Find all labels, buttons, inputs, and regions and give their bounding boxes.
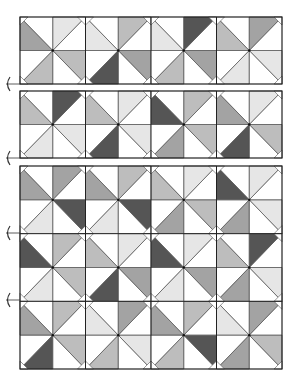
center-dot: [248, 266, 250, 268]
center-dot: [183, 334, 185, 336]
center-dot: [52, 199, 54, 201]
center-dot: [52, 49, 54, 51]
center-dot: [248, 199, 250, 201]
center-dot: [117, 266, 119, 268]
quilt-block: [86, 301, 152, 369]
quilt-block: [86, 234, 152, 302]
center-dot: [52, 123, 54, 125]
seam-marker-icon: [6, 77, 20, 91]
quilt-block: [151, 166, 217, 234]
quilt-block: [151, 234, 217, 302]
quilt-block: [217, 301, 283, 369]
center-dot: [183, 49, 185, 51]
center-dot: [183, 123, 185, 125]
center-dot: [183, 266, 185, 268]
center-dot: [117, 334, 119, 336]
center-dot: [117, 199, 119, 201]
quilt-block: [20, 301, 86, 369]
center-dot: [248, 123, 250, 125]
quilt-block: [217, 234, 283, 302]
seam-marker-icon: [6, 226, 20, 240]
quilt-block: [20, 91, 86, 158]
quilt-svg: [0, 0, 296, 380]
center-dot: [183, 199, 185, 201]
quilt-block: [151, 91, 217, 158]
seam-marker-icon: [6, 293, 20, 307]
quilt-block: [151, 301, 217, 369]
quilt-block: [20, 17, 86, 84]
quilt-block: [20, 234, 86, 302]
center-dot: [117, 123, 119, 125]
quilt-block: [86, 17, 152, 84]
center-dot: [248, 49, 250, 51]
quilt-block: [86, 91, 152, 158]
quilt-block: [217, 166, 283, 234]
quilt-block: [217, 17, 283, 84]
center-dot: [52, 266, 54, 268]
quilt-diagram: [0, 0, 296, 380]
center-dot: [248, 334, 250, 336]
quilt-block: [20, 166, 86, 234]
center-dot: [117, 49, 119, 51]
quilt-block: [217, 91, 283, 158]
quilt-block: [86, 166, 152, 234]
seam-marker-icon: [6, 151, 20, 165]
quilt-block: [151, 17, 217, 84]
center-dot: [52, 334, 54, 336]
